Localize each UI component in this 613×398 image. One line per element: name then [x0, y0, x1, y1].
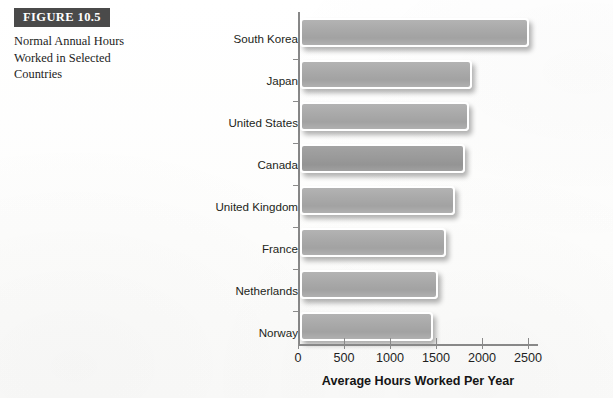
y-axis-tick-5 — [293, 227, 299, 228]
y-axis-tick-2 — [293, 101, 299, 102]
bar-japan — [300, 60, 472, 89]
y-axis-tick-6 — [293, 269, 299, 270]
category-label-netherlands: Netherlands — [235, 285, 298, 297]
bar-south-korea — [300, 18, 529, 47]
bar-united-states — [300, 102, 469, 131]
bar-france — [300, 228, 446, 257]
category-label-canada: Canada — [257, 159, 298, 171]
x-axis-tick-2500 — [528, 338, 529, 349]
x-axis-label-1000: 1000 — [376, 352, 404, 365]
category-label-united-states: United States — [228, 117, 298, 129]
category-label-south-korea: South Korea — [234, 33, 298, 45]
bar-chart: South Korea Japan United States Canada U… — [0, 0, 613, 398]
bar-netherlands — [300, 270, 438, 299]
y-axis-tick-3 — [293, 143, 299, 144]
plot-area: 0 500 1000 1500 2000 2500 Average Hours … — [298, 12, 558, 346]
x-axis-title: Average Hours Worked Per Year — [298, 374, 538, 388]
x-axis-tick-1500 — [436, 338, 437, 349]
x-axis-tick-0 — [298, 338, 299, 349]
category-label-norway: Norway — [259, 327, 298, 339]
bar-norway — [300, 312, 433, 341]
x-axis-label-1500: 1500 — [422, 352, 450, 365]
x-axis-label-2500: 2500 — [514, 352, 542, 365]
x-axis-tick-1000 — [390, 338, 391, 349]
y-axis-tick-4 — [293, 185, 299, 186]
x-axis-label-0: 0 — [294, 352, 301, 365]
x-axis-label-2000: 2000 — [468, 352, 496, 365]
bar-united-kingdom — [300, 186, 455, 215]
x-axis-tick-2000 — [482, 338, 483, 349]
category-label-france: France — [262, 243, 298, 255]
bar-canada — [300, 144, 465, 173]
category-label-united-kingdom: United Kingdom — [216, 201, 299, 213]
category-label-japan: Japan — [266, 75, 298, 87]
x-axis-label-500: 500 — [333, 352, 354, 365]
x-axis-tick-500 — [344, 338, 345, 349]
y-axis-tick-7 — [293, 311, 299, 312]
x-axis-line — [298, 344, 538, 346]
y-axis-tick-1 — [293, 59, 299, 60]
